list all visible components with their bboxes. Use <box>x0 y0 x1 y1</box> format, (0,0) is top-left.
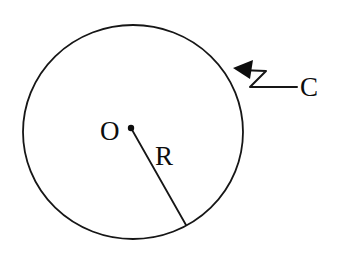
diagram-background <box>0 0 337 255</box>
center-label: O <box>100 116 120 146</box>
radius-label: R <box>155 141 173 171</box>
circle-radius-diagram: O R C <box>0 0 337 255</box>
center-point <box>128 125 134 131</box>
circumference-label: C <box>300 72 318 102</box>
